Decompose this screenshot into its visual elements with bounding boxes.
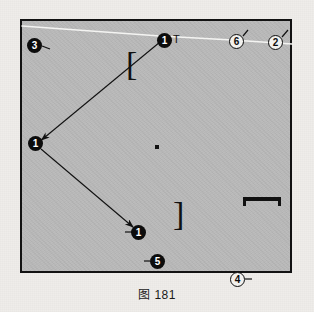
center-point-dot	[155, 145, 159, 149]
marker-1-top[interactable]: 1	[157, 33, 172, 48]
marker-3[interactable]: 3	[27, 38, 42, 53]
marker-6[interactable]: 6	[229, 34, 244, 49]
marker-1-left[interactable]: 1	[28, 136, 43, 151]
t-label: T	[173, 33, 180, 45]
horizontal-bracket-icon	[243, 197, 281, 206]
marker-1-bottom[interactable]: 1	[131, 225, 146, 240]
marker-2[interactable]: 2	[268, 35, 283, 50]
figure-caption: 图 181	[0, 285, 314, 302]
marker-5[interactable]: 5	[150, 254, 165, 269]
bracket-upper-icon: [	[126, 47, 137, 81]
bracket-lower-icon: ]	[173, 197, 184, 231]
